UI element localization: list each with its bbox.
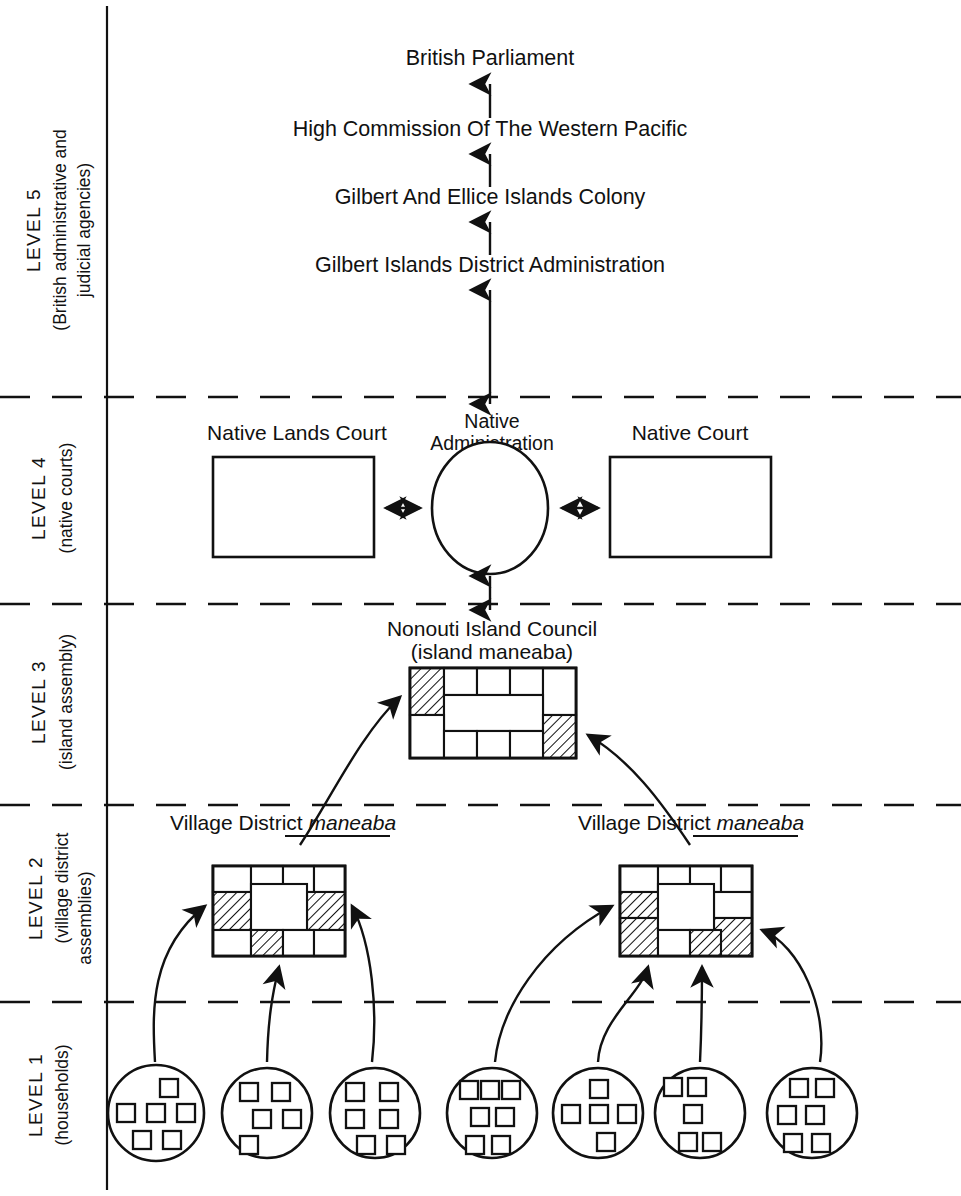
left-village-maneaba — [213, 866, 345, 956]
household-hut — [117, 1104, 135, 1122]
household-hut — [466, 1136, 484, 1154]
arrow-household-4-to-right-maneaba — [495, 906, 612, 1062]
arrow-household-6-to-right-maneaba — [700, 967, 702, 1062]
left-maneaba-cell-hatched-bottom — [251, 930, 283, 956]
household-hut — [346, 1110, 364, 1128]
household-group-3 — [330, 1068, 420, 1158]
level-label-level1: LEVEL 1 (households) — [25, 1044, 72, 1145]
household-hut — [816, 1079, 834, 1097]
native-lands-court-label: Native Lands Court — [207, 421, 387, 444]
political-structure-diagram: LEVEL 5 (British administrative and judi… — [0, 0, 961, 1196]
household-hut — [618, 1105, 636, 1123]
household-hut — [272, 1083, 290, 1101]
right-village-district-label-group: Village District maneaba — [578, 811, 804, 836]
native-administration-label-line1: Native — [464, 410, 519, 432]
right-maneaba-cell — [714, 892, 752, 918]
level-label-level2: LEVEL 2 (village district assemblies) — [25, 832, 95, 964]
household-hut — [664, 1078, 682, 1096]
level-label-level3: LEVEL 3 (island assembly) — [28, 634, 76, 770]
household-hut — [812, 1134, 830, 1152]
arrow-household-5-to-right-maneaba — [598, 967, 648, 1062]
right-village-maneaba — [620, 866, 752, 956]
level-label-level5: LEVEL 5 (British administrative and judi… — [23, 129, 94, 330]
household-hut — [590, 1105, 608, 1123]
arrow-household-1-to-left-maneaba — [154, 906, 205, 1062]
household-group-5 — [553, 1068, 643, 1158]
household-hut — [147, 1104, 165, 1122]
household-hut — [240, 1136, 258, 1154]
level3-number: LEVEL 3 — [28, 660, 49, 744]
household-hut — [790, 1079, 808, 1097]
native-lands-court-box — [213, 457, 374, 557]
island-maneaba-cell — [444, 731, 477, 758]
island-maneaba — [410, 668, 576, 758]
level5-subtitle-line1: (British administrative and — [50, 129, 70, 330]
household-hut — [784, 1134, 802, 1152]
household-hut — [492, 1136, 510, 1154]
household-hut — [133, 1131, 151, 1149]
left-maneaba-cell-hatched-left — [213, 892, 251, 930]
level4-number: LEVEL 4 — [28, 456, 49, 540]
level5-node-british-parliament: British Parliament — [406, 46, 574, 70]
left-village-district-maneaba-word: maneaba — [309, 811, 397, 834]
level1-subtitle-line1: (households) — [52, 1044, 72, 1145]
left-maneaba-cell — [314, 930, 345, 956]
household-hut — [502, 1081, 520, 1099]
level5-node-gilbert-ellice-colony: Gilbert And Ellice Islands Colony — [335, 185, 646, 209]
native-administration-ellipse — [432, 442, 548, 574]
left-maneaba-center-floor — [251, 884, 307, 930]
level5-node-gilbert-district-administration: Gilbert Islands District Administration — [315, 253, 665, 277]
right-maneaba-cell — [721, 866, 752, 892]
level2-number: LEVEL 2 — [25, 856, 46, 940]
household-hut — [590, 1080, 608, 1098]
left-village-district-label-group: Village District maneaba — [170, 811, 396, 836]
household-hut — [380, 1110, 398, 1128]
level1-number: LEVEL 1 — [25, 1053, 46, 1137]
left-maneaba-cell-hatched-right — [307, 892, 345, 930]
right-village-district-label: Village District maneaba — [578, 811, 804, 834]
household-hut — [253, 1110, 271, 1128]
island-maneaba-cell-hatched-bottomright — [543, 715, 576, 758]
household-hut — [346, 1083, 364, 1101]
right-maneaba-cell — [658, 930, 690, 956]
right-maneaba-cell — [620, 866, 658, 892]
household-group-4 — [447, 1068, 537, 1158]
household-hut — [778, 1106, 796, 1124]
level2-subtitle-line1: (village district — [52, 832, 72, 943]
household-hut — [283, 1110, 301, 1128]
left-village-district-label: Village District maneaba — [170, 811, 396, 834]
nonouti-island-council-label-line2: (island maneaba) — [411, 640, 573, 663]
left-maneaba-cell — [314, 866, 345, 892]
household-hut — [357, 1136, 375, 1154]
level-label-level4: LEVEL 4 (native courts) — [28, 443, 76, 554]
household-hut — [177, 1104, 195, 1122]
household-hut — [597, 1133, 615, 1151]
household-hut — [163, 1131, 181, 1149]
level3-subtitle-line1: (island assembly) — [56, 634, 76, 770]
level4-subtitle-line1: (native courts) — [56, 443, 76, 554]
household-hut — [160, 1079, 178, 1097]
island-maneaba-cell — [477, 731, 510, 758]
household-hut — [380, 1083, 398, 1101]
island-maneaba-cell — [410, 715, 444, 758]
level5-node-high-commission: High Commission Of The Western Pacific — [293, 117, 688, 141]
household-hut — [703, 1133, 721, 1151]
right-maneaba-cell-hatched-left-lower — [620, 918, 658, 956]
household-group-7 — [767, 1068, 857, 1158]
island-maneaba-cell — [510, 731, 543, 758]
level5-subtitle-line2: judicial agencies) — [74, 163, 94, 298]
household-hut — [684, 1105, 702, 1123]
island-maneaba-cell — [477, 668, 510, 695]
arrow-household-3-to-left-maneaba — [352, 906, 374, 1062]
right-village-district-maneaba-word: maneaba — [717, 811, 805, 834]
native-court-label: Native Court — [632, 421, 749, 444]
island-maneaba-cell-hatched-topleft — [410, 668, 444, 715]
household-hut — [496, 1108, 514, 1126]
arrow-household-2-to-left-maneaba — [267, 967, 279, 1062]
arrow-household-7-to-right-maneaba — [762, 930, 821, 1062]
household-hut — [806, 1106, 824, 1124]
island-maneaba-cell — [510, 668, 543, 695]
household-group-1 — [108, 1065, 204, 1161]
household-hut — [387, 1136, 405, 1154]
household-hut — [688, 1078, 706, 1096]
